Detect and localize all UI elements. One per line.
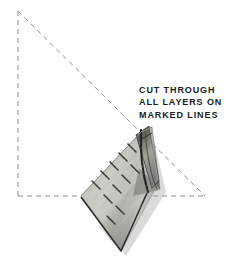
fabric-cutting-diagram: CUT THROUGH ALL LAYERS ON MARKED LINES bbox=[0, 0, 226, 276]
caption-block: CUT THROUGH ALL LAYERS ON MARKED LINES bbox=[139, 84, 223, 121]
caption-line-2: ALL LAYERS ON bbox=[139, 96, 223, 108]
caption-line-1: CUT THROUGH bbox=[139, 84, 223, 96]
caption-line-3: MARKED LINES bbox=[139, 109, 223, 121]
diagram-canvas bbox=[0, 0, 226, 276]
folded-fabric-strip bbox=[81, 126, 166, 256]
